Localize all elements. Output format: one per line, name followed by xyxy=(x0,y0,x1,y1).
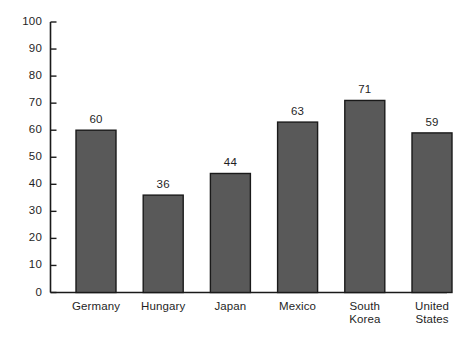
bar-value-label: 63 xyxy=(260,106,336,118)
y-axis-tick-label: 10 xyxy=(8,259,42,271)
bar-chart: 0102030405060708090100 603644637159 Germ… xyxy=(0,0,472,337)
y-axis-tick-label: 70 xyxy=(8,97,42,109)
bar xyxy=(345,100,385,292)
bar xyxy=(210,173,250,292)
y-axis-tick-label: 0 xyxy=(8,287,42,299)
y-axis-tick-label: 30 xyxy=(8,205,42,217)
y-axis-tick-label: 20 xyxy=(8,232,42,244)
bar-value-label: 36 xyxy=(125,179,201,191)
bar xyxy=(278,122,318,292)
bar-value-label: 71 xyxy=(327,84,403,96)
y-axis-tick-label: 80 xyxy=(8,70,42,82)
bar-value-label: 59 xyxy=(394,117,470,129)
bar xyxy=(76,130,116,292)
y-axis-tick-label: 100 xyxy=(8,16,42,28)
y-axis-ticks xyxy=(51,22,57,293)
bar xyxy=(143,195,183,292)
y-axis-tick-label: 60 xyxy=(8,124,42,136)
bar-value-label: 44 xyxy=(192,157,268,169)
y-axis-tick-label: 40 xyxy=(8,178,42,190)
y-axis-tick-label: 90 xyxy=(8,43,42,55)
y-axis-tick-label: 50 xyxy=(8,151,42,163)
bars-group xyxy=(76,100,452,292)
bar-value-label: 60 xyxy=(58,114,134,126)
bar xyxy=(412,133,452,293)
x-axis-category-label: United States xyxy=(390,300,472,326)
